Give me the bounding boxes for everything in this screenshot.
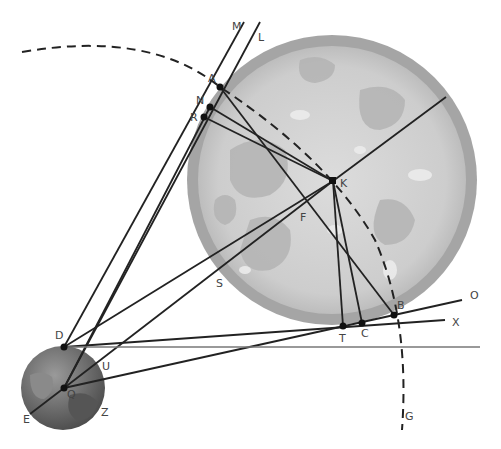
label-Q: Q — [67, 388, 76, 401]
label-Z: Z — [101, 406, 109, 419]
label-C: C — [361, 327, 369, 340]
label-K: K — [340, 177, 348, 190]
label-O: O — [470, 289, 479, 302]
label-M: M — [232, 20, 242, 33]
label-B: B — [397, 299, 405, 312]
label-E: E — [23, 413, 30, 426]
label-D: D — [55, 329, 63, 342]
label-G: G — [405, 410, 414, 423]
label-S: S — [216, 277, 223, 290]
diagram-canvas: A N R K F S B C T O X D U Q E Z M L G — [0, 0, 501, 449]
label-T: T — [338, 332, 346, 345]
label-X: X — [452, 316, 460, 329]
label-U: U — [102, 360, 110, 373]
label-A: A — [208, 72, 216, 85]
label-R: R — [190, 111, 198, 124]
label-F: F — [300, 211, 306, 224]
label-N: N — [196, 94, 204, 107]
label-L: L — [258, 31, 265, 44]
